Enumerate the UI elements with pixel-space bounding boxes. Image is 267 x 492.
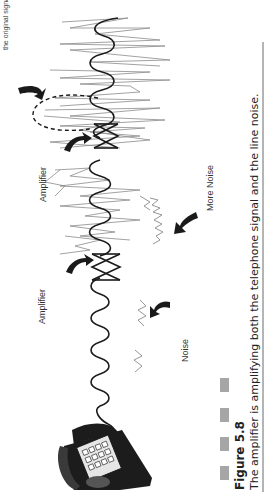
caption-bars [220, 378, 229, 480]
telephone-icon [58, 423, 152, 490]
top-note-text: the original signal. [2, 0, 9, 50]
feedback-dashed-loop [33, 95, 98, 130]
label-noise: Noise [180, 339, 190, 362]
arrow-icon [18, 86, 46, 100]
amplifier-symbol-lower [92, 254, 120, 280]
figure-diagram [0, 0, 267, 492]
more-noise-squiggle [140, 196, 163, 244]
noise-squiggle [134, 300, 146, 372]
arrow-icon [64, 132, 92, 152]
label-amplifier-upper: Amplifier [38, 167, 48, 202]
figure-number: Figure 5.8 [233, 421, 247, 490]
figure-caption: The amplifier is amplifying both the tel… [248, 94, 261, 491]
arrow-icon [150, 301, 170, 318]
label-more-noise: More Noise [205, 165, 215, 211]
arrow-icon [66, 254, 94, 274]
arrow-icon [174, 212, 198, 234]
amplified-noise [44, 18, 170, 254]
label-amplifier-lower: Amplifier [37, 289, 47, 324]
